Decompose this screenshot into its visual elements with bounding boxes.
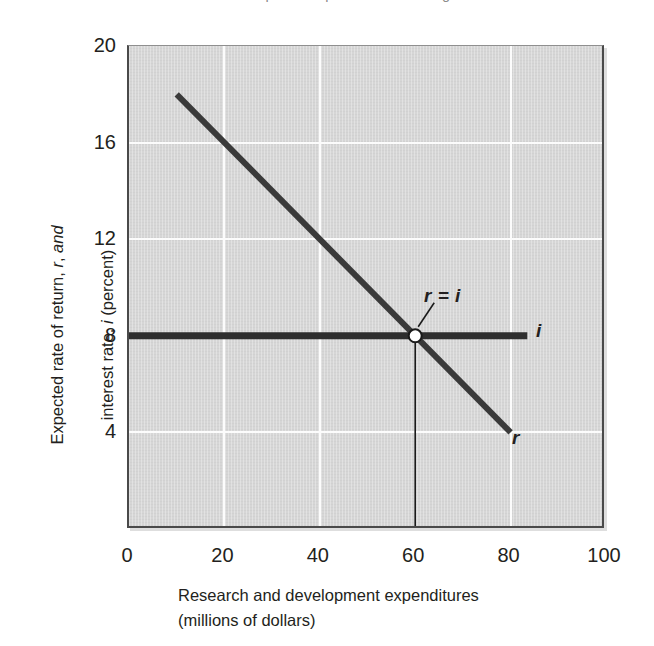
chart-plot-inner [129,46,602,526]
x-axis-tick-label: 20 [192,545,252,565]
series-label-i: i [536,321,541,340]
x-axis-title: Research and development expenditures (m… [178,583,598,633]
equilibrium-marker [409,329,422,342]
y-axis-tick-label: 20 [76,35,116,55]
x-axis-title-line2: (millions of dollars) [178,608,598,633]
equilibrium-label: r = i [424,286,461,305]
x-axis-tick-label: 80 [479,545,539,565]
equilibrium-leader-line [418,303,434,327]
x-axis-title-line1: Research and development expenditures [178,583,598,608]
series-label-r: r [512,428,519,447]
y-axis-title-line2: interest rate, i (percent) [98,250,116,421]
chart-plot-area [127,45,604,528]
x-axis-tick-label: 60 [383,545,443,565]
y-axis-title-line1: Expected rate of return, r, and [48,225,66,444]
x-axis-tick-label: 40 [288,545,348,565]
x-axis-tick-label: 100 [574,545,634,565]
chart-curve-layer [129,46,602,526]
y-axis-title: Expected rate of return, r, and interest… [20,115,120,555]
caption-remnant-text: of research and development expenditures… [118,0,578,2]
series-line-r [177,94,511,432]
